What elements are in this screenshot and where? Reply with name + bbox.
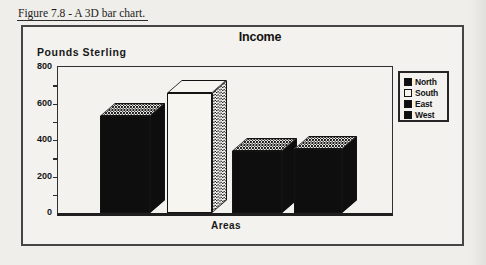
bar-south-side-face: [212, 80, 227, 213]
y-tick-label-200: 200: [18, 171, 52, 182]
y-tick-mark-300: [53, 158, 58, 159]
scan-edge-shadow: [470, 0, 486, 265]
y-axis-title: Pounds Sterling: [37, 46, 127, 58]
y-tick-mark-400: [53, 140, 58, 141]
plot-area: [57, 66, 393, 216]
legend-label-north: North: [415, 77, 437, 87]
legend-swatch-north: [404, 78, 412, 86]
bar-east-front-face: [232, 151, 282, 213]
bar-west-front-face: [294, 149, 342, 213]
bar-north-front-face: [100, 116, 150, 213]
legend-label-south: South: [415, 88, 438, 98]
y-tick-label-600: 600: [18, 98, 52, 109]
y-tick-label-0: 0: [18, 207, 52, 218]
bar-south-front-face: [167, 93, 212, 213]
x-axis-title: Areas: [190, 220, 262, 231]
figure-caption: Figure 7.8 - A 3D bar chart.: [17, 7, 148, 21]
y-tick-label-800: 800: [18, 61, 52, 72]
bar-west-side-face: [342, 136, 357, 213]
legend-item-north: North: [404, 76, 447, 87]
y-tick-mark-500: [53, 122, 58, 123]
y-tick-mark-200: [53, 177, 58, 178]
y-tick-mark-700: [53, 85, 58, 86]
chart-title: Income: [180, 30, 340, 44]
legend-swatch-west: [404, 111, 412, 119]
legend-label-east: East: [415, 99, 432, 109]
y-tick-mark-100: [53, 195, 58, 196]
legend-box: NorthSouthEastWest: [398, 71, 449, 122]
bar-north-side-face: [150, 103, 165, 213]
legend-label-west: West: [415, 110, 434, 120]
y-tick-label-400: 400: [18, 134, 52, 145]
legend-item-west: West: [404, 109, 447, 120]
scanned-page: Figure 7.8 - A 3D bar chart. Income Poun…: [0, 0, 486, 265]
legend-swatch-south: [404, 89, 412, 97]
legend-item-south: South: [404, 87, 447, 98]
legend-item-east: East: [404, 98, 447, 109]
y-tick-mark-600: [53, 104, 58, 105]
legend-swatch-east: [404, 100, 412, 108]
